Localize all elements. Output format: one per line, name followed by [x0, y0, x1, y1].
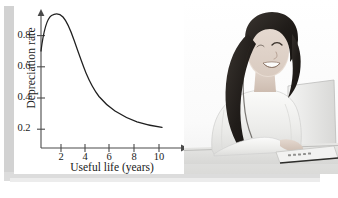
y-tick-label-3: 0.2	[10, 122, 38, 133]
chart-plot-svg	[14, 0, 200, 174]
y-axis-arrow-icon	[38, 9, 45, 16]
x-axis-title: Useful life (years)	[32, 161, 192, 173]
photo-woman-at-laptop	[184, 0, 338, 174]
depreciation-curve	[41, 14, 162, 128]
figure-panel: 0.8 0.6 0.4 0.2 2 4 6 8 10 Depreciation …	[14, 0, 324, 174]
depreciation-chart: 0.8 0.6 0.4 0.2 2 4 6 8 10 Depreciation …	[14, 0, 200, 174]
photo-illustration	[184, 0, 338, 174]
figure-shadow-bottom-fade	[10, 178, 320, 182]
y-axis-title: Depreciation rate	[25, 13, 37, 123]
